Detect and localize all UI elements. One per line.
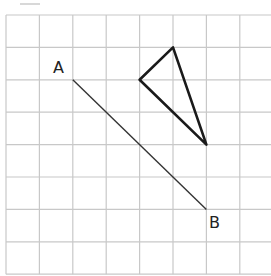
grid-diagram: A B [0,0,271,276]
point-label-a: A [53,58,64,77]
background [0,0,271,276]
point-label-b: B [209,213,220,232]
